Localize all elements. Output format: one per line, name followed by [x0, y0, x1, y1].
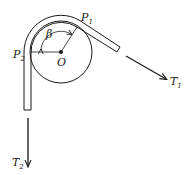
belt-pulley-diagram: P1 P2 O β T1 T2 — [0, 0, 188, 175]
label-o: O — [57, 56, 66, 69]
radius-line-to-p1 — [61, 27, 77, 52]
belt-inner-edge — [24, 15, 120, 110]
label-t1: T1 — [170, 75, 182, 90]
tension-arrow-t1 — [126, 56, 166, 79]
label-p2: P2 — [12, 48, 25, 63]
belt-end-cap-right — [117, 47, 120, 52]
label-p1: P1 — [80, 11, 93, 26]
label-beta: β — [45, 28, 52, 41]
center-point-o — [59, 50, 63, 54]
label-t2: T2 — [12, 156, 24, 171]
belt-outer-edge-visible — [31, 22, 117, 110]
